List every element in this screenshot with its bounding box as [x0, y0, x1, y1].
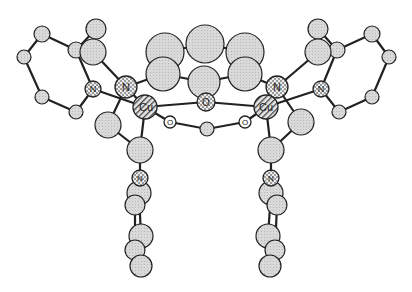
- atom-label-cu1: Cu: [139, 101, 153, 113]
- atom-c26: [365, 90, 379, 104]
- atom-label-n1: N: [122, 81, 130, 93]
- atom-c35: [200, 122, 214, 136]
- atom-c11: [17, 50, 31, 64]
- atom-c27: [332, 105, 346, 119]
- atom-label-n6: N: [268, 174, 274, 183]
- atom-label-o3: O: [242, 118, 248, 127]
- atom-c34: [259, 255, 281, 277]
- atom-c28: [288, 109, 314, 135]
- atom-c24: [364, 26, 380, 42]
- atom-c14: [95, 112, 121, 138]
- atom-c15: [127, 137, 153, 163]
- atom-c12: [35, 90, 49, 104]
- atom-c10: [34, 26, 50, 42]
- atom-c4: [146, 57, 180, 91]
- atom-c6: [228, 57, 262, 91]
- atom-c21: [308, 19, 328, 39]
- atoms-layer: [17, 19, 396, 277]
- atom-c31: [267, 195, 287, 215]
- atom-c20: [130, 255, 152, 277]
- bonds-layer: [24, 29, 389, 266]
- atom-c13: [69, 105, 83, 119]
- atom-c25: [382, 50, 396, 64]
- atom-c8: [80, 39, 106, 65]
- atom-label-n5: N: [137, 174, 143, 183]
- atom-label-o2: O: [167, 118, 173, 127]
- atom-c22: [305, 39, 331, 65]
- atom-c7: [86, 19, 106, 39]
- atom-label-cu2: Cu: [259, 101, 273, 113]
- molecular-structure-diagram: N N N N N N Cu Cu O O O: [0, 0, 412, 292]
- atom-label-o1: O: [202, 97, 210, 108]
- atom-c29: [258, 137, 284, 163]
- atom-label-n3: N: [273, 81, 281, 93]
- atom-label-n2: N: [90, 84, 97, 94]
- atom-label-n4: N: [318, 84, 325, 94]
- atom-c17: [125, 195, 145, 215]
- atom-c2: [186, 25, 224, 63]
